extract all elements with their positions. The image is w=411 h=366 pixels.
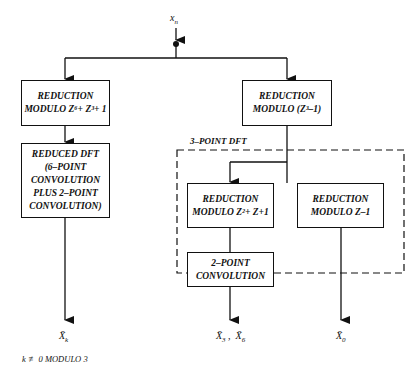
output-x3-x6: X̄3 , X̄6 [216,330,245,344]
box-reduction-z6: REDUCTION MODULO Z⁶+ Z³+ 1 [21,80,110,126]
footnote: k ≢ 0 MODULO 3 [22,354,88,364]
output-x0: X̄0 [336,330,346,344]
box-two-point-convolution: 2–POINT CONVOLUTION [187,252,274,287]
output-xk: X̄k [59,330,68,344]
box-reduction-z1: REDUCTION MODULO Z–1 [297,183,384,228]
box-reduced-dft: REDUCED DFT (6–POINT CONVOLUTION PLUS 2–… [21,143,110,218]
group-label: 3–POINT DFT [190,136,247,146]
box-reduction-z3: REDUCTION MODULO (Z³–1) [242,80,332,126]
input-label: xn [170,12,178,26]
junction-dot [173,41,179,47]
box-reduction-z2: REDUCTION MODULO Z²+ Z+1 [187,183,274,228]
